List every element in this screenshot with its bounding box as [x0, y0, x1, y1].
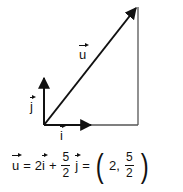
frac1-denominator: 2	[63, 167, 70, 180]
eq-plus: +	[49, 158, 57, 173]
eq-equals-1: =	[23, 158, 31, 173]
vector-u-arrow	[44, 8, 136, 125]
frac1-numerator: 5	[63, 151, 70, 164]
eq-term-i: i	[42, 158, 45, 173]
eq-equals-2: =	[82, 158, 90, 173]
eq-lhs-u: u	[12, 158, 19, 173]
eq-fraction-1: 5 2	[61, 151, 72, 179]
eq-close-paren: )	[140, 148, 148, 182]
vector-u-label: u	[79, 48, 86, 61]
vector-j-label: j	[30, 100, 33, 113]
frac2-denominator: 2	[126, 167, 133, 180]
eq-coef-i: 2	[35, 158, 42, 173]
frac2-numerator: 5	[126, 151, 133, 164]
eq-x-component: 2,	[109, 158, 120, 173]
eq-fraction-2: 5 2	[124, 151, 135, 179]
eq-term-j: j	[75, 158, 78, 173]
equation: u = 2i + 5 2 j = ( 2, 5 2 )	[10, 148, 152, 182]
eq-open-paren: (	[95, 148, 103, 182]
vector-i-label: i	[60, 129, 63, 142]
